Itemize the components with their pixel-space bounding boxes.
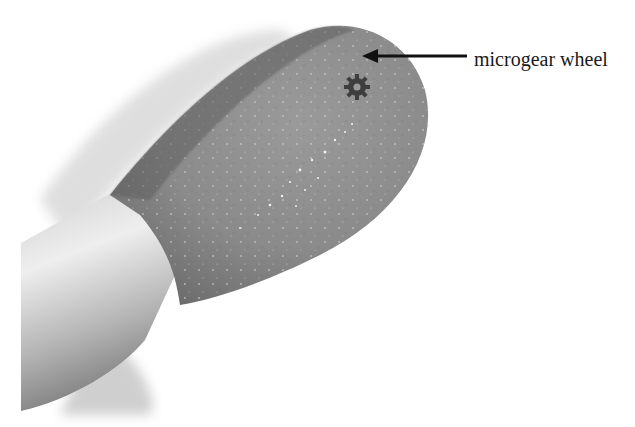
annotation-arrow	[362, 49, 467, 63]
annotation-label: microgear wheel	[474, 48, 608, 71]
microgear-wheel	[344, 74, 370, 100]
